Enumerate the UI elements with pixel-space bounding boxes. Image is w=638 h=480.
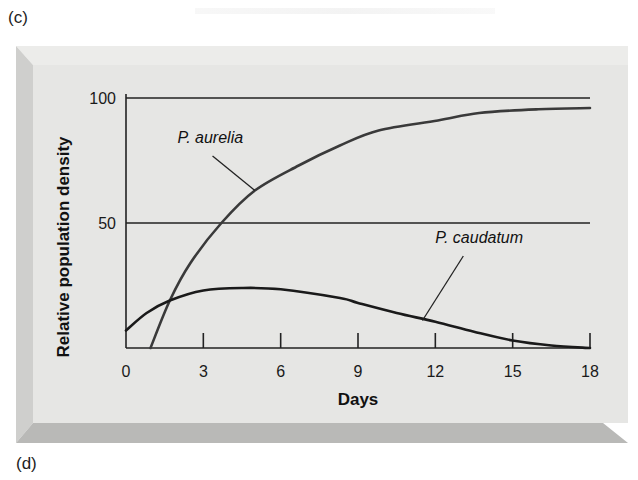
y-axis-title: Relative population density: [54, 136, 73, 358]
y-tick-label: 100: [89, 90, 116, 107]
series-label: P. caudatum: [435, 229, 523, 246]
population-chart: 0369121518 50100 P. aureliaP. caudatum D…: [0, 0, 638, 480]
x-axis-title: Days: [338, 390, 379, 409]
x-tick-label: 15: [504, 363, 522, 380]
x-tick-label: 9: [354, 363, 363, 380]
y-tick-label: 50: [98, 215, 116, 232]
x-tick-label: 18: [581, 363, 599, 380]
series-label: P. aurelia: [178, 129, 244, 146]
x-tick-label: 12: [426, 363, 444, 380]
panel-bottom-strip: [16, 423, 628, 443]
x-tick-label: 3: [199, 363, 208, 380]
panel-label-d: (d): [16, 454, 37, 474]
panel-top-edge: [16, 46, 628, 65]
panel-left-bevel: [16, 46, 33, 443]
x-tick-label: 0: [122, 363, 131, 380]
x-tick-label: 6: [276, 363, 285, 380]
